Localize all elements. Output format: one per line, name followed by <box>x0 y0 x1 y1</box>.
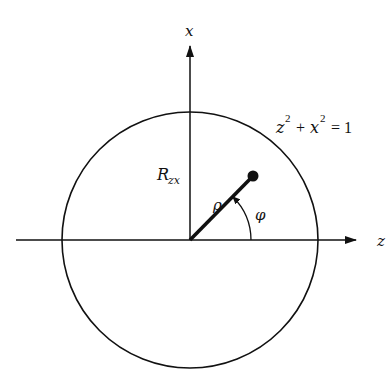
equation-exp-2: 2 <box>320 112 326 124</box>
phi-label: φ <box>255 206 266 224</box>
radius-label: R zx <box>156 165 181 187</box>
equation-var-z: z <box>275 118 285 137</box>
phi-angle-arc <box>233 197 251 240</box>
rho-endpoint-dot <box>248 171 259 182</box>
z-axis-label: z <box>376 232 385 250</box>
equation-plus: + <box>296 119 305 136</box>
equation-rhs: = 1 <box>331 119 352 136</box>
rho-label: ρ <box>212 196 222 214</box>
radius-label-subscript: zx <box>167 174 181 187</box>
x-axis-label: x <box>185 22 194 40</box>
equation-exp-1: 2 <box>285 112 291 124</box>
unit-circle-diagram: x z z 2 + x 2 = 1 R zx ρ φ <box>0 0 391 383</box>
equation-var-x: x <box>310 118 319 137</box>
circle-equation: z 2 + x 2 = 1 <box>275 112 352 137</box>
